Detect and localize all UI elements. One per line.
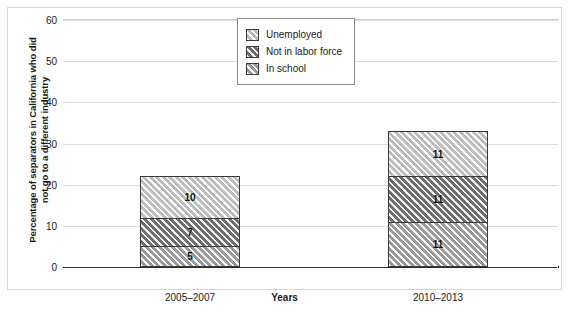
chart-figure: Percentage of separators in California w… (0, 0, 569, 314)
y-tick-label-40: 40 (46, 97, 57, 108)
bar-segment-not-in-labor-force[interactable]: 7 (140, 218, 240, 247)
legend-swatch-icon (246, 46, 259, 58)
bar-segment-value: 11 (433, 149, 444, 160)
bar-segment-value: 5 (187, 251, 193, 262)
y-tick-label-10: 10 (46, 220, 57, 231)
legend-swatch-icon (246, 63, 259, 75)
legend-item-label: In school (266, 63, 306, 74)
bar-segment-value: 11 (433, 194, 444, 205)
bar-segment-value: 11 (433, 239, 444, 250)
legend-item-not-in-labor-force[interactable]: Not in labor force (246, 43, 342, 60)
y-tick-label-20: 20 (46, 179, 57, 190)
legend-item-label: Not in labor force (266, 46, 342, 57)
x-axis-title: Years (0, 292, 569, 303)
chart-legend: Unemployed Not in labor force In school (237, 18, 355, 85)
gridline-40 (63, 102, 558, 103)
y-tick-label-50: 50 (46, 56, 57, 67)
legend-item-in-school[interactable]: In school (246, 60, 342, 77)
legend-item-label: Unemployed (266, 29, 322, 40)
legend-swatch-icon (246, 29, 259, 41)
bar-segment-value: 10 (184, 192, 195, 203)
bar-segment-not-in-labor-force[interactable]: 11 (388, 176, 488, 221)
bar-segment-unemployed[interactable]: 11 (388, 131, 488, 176)
y-tick-label-30: 30 (46, 138, 57, 149)
bar-segment-in-school[interactable]: 11 (388, 222, 488, 267)
y-tick-label-0: 0 (51, 262, 57, 273)
bar-segment-unemployed[interactable]: 10 (140, 176, 240, 217)
bar-segment-in-school[interactable]: 5 (140, 246, 240, 267)
y-tick-label-60: 60 (46, 15, 57, 26)
y-axis-title-line-1: Percentage of separators in California w… (27, 5, 39, 275)
legend-item-unemployed[interactable]: Unemployed (246, 26, 342, 43)
bar-segment-value: 7 (187, 227, 193, 238)
